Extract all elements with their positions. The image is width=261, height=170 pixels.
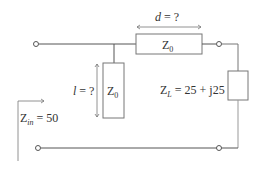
top-left-terminal bbox=[34, 42, 39, 47]
d-length-label: d = ? bbox=[155, 10, 179, 24]
l-length-label: l = ? bbox=[73, 84, 94, 98]
bottom-left-terminal bbox=[36, 146, 41, 151]
load-impedance-label: ZL = 25 + j25 bbox=[160, 83, 225, 99]
load-box bbox=[228, 71, 248, 100]
zin-label: Zin = 50 bbox=[20, 111, 58, 127]
top-right-terminal bbox=[217, 42, 222, 47]
bottom-right-terminal bbox=[217, 146, 222, 151]
circuit-diagram: Z0 d = ? ZL = 25 + j25 Z0 l = ? Zin = 50 bbox=[0, 0, 261, 170]
